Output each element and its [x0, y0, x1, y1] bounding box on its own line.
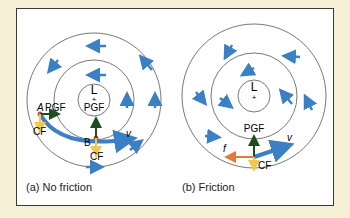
- velocity-label: v: [126, 128, 132, 139]
- velocity-arrow: [254, 146, 287, 157]
- panel-b-friction: L + PGF f CF v: [182, 24, 326, 171]
- point-b-label: B: [84, 137, 91, 148]
- caption-b: (b) Friction: [182, 181, 235, 193]
- cf-a-label: CF: [33, 126, 46, 137]
- center-plus: +: [252, 93, 257, 102]
- cf-b-label: CF: [90, 151, 103, 162]
- pgf-label: PGF: [244, 123, 265, 134]
- pgf-center-label: PGF: [84, 102, 105, 113]
- cf-label: CF: [258, 160, 271, 171]
- point-a-label: A: [36, 102, 44, 113]
- low-pressure-label: L: [251, 80, 258, 94]
- caption-a: (a) No friction: [26, 181, 92, 193]
- panel-a-no-friction: L + PGF A PGF CF B CF v: [27, 33, 161, 167]
- velocity-label: v: [287, 132, 293, 143]
- friction-label: f: [223, 143, 227, 154]
- pgf-a-label: PGF: [45, 102, 66, 113]
